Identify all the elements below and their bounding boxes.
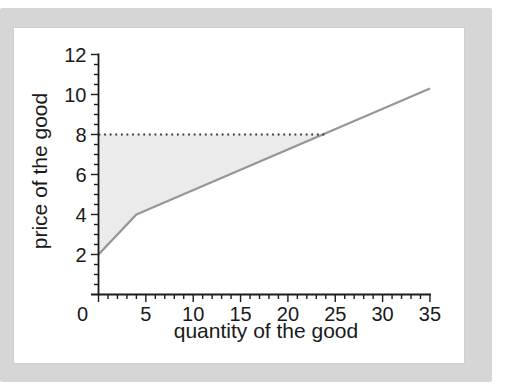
x-axis-label: quantity of the good bbox=[174, 319, 358, 342]
producer-surplus-region bbox=[99, 135, 326, 255]
x-tick-label: 0 bbox=[77, 303, 88, 325]
y-tick-label: 10 bbox=[64, 84, 86, 106]
y-axis-label: price of the good bbox=[28, 93, 51, 249]
y-tick-label: 4 bbox=[75, 204, 86, 226]
x-tick-label: 35 bbox=[419, 303, 441, 325]
chart-card: 0510152025303524681012quantity of the go… bbox=[13, 27, 465, 364]
y-tick-label: 6 bbox=[75, 164, 86, 186]
y-tick-label: 12 bbox=[64, 44, 86, 66]
page-background: 0510152025303524681012quantity of the go… bbox=[0, 8, 492, 382]
screen: 0510152025303524681012quantity of the go… bbox=[0, 0, 505, 390]
x-tick-label: 5 bbox=[140, 303, 151, 325]
x-tick-label: 30 bbox=[371, 303, 393, 325]
supply-demand-chart: 0510152025303524681012quantity of the go… bbox=[14, 28, 464, 363]
y-tick-label: 8 bbox=[75, 124, 86, 146]
y-tick-label: 2 bbox=[75, 244, 86, 266]
